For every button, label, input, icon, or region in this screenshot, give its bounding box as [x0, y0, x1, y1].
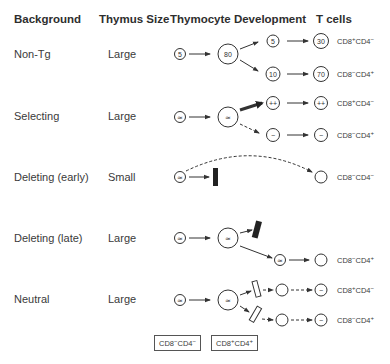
svg-text:≃: ≃: [225, 297, 231, 304]
svg-text:≃: ≃: [225, 235, 231, 242]
svg-text:−: −: [271, 132, 275, 139]
row-deleting-late-diagram: [175, 220, 328, 266]
svg-text:5: 5: [271, 38, 275, 45]
svg-text:≃: ≃: [177, 297, 183, 304]
tcell-label: CD8−CD4−: [337, 172, 374, 182]
row-deleting-early-diagram: [175, 156, 328, 186]
partial-block-icon: [249, 306, 261, 322]
svg-text:≃: ≃: [177, 235, 183, 242]
legend-dn: CD8−CD4−: [154, 335, 201, 351]
tcell-label: CD8+CD4−: [337, 36, 374, 46]
tcell-label: CD8−CD4+: [337, 69, 374, 79]
svg-text:−: −: [319, 287, 323, 294]
tcell-label: CD8+CD4−: [337, 98, 374, 108]
svg-text:80: 80: [224, 51, 232, 58]
svg-text:5: 5: [178, 51, 182, 58]
svg-text:++: ++: [317, 100, 325, 107]
svg-text:≃: ≃: [177, 174, 183, 181]
block-icon: [252, 220, 262, 238]
svg-text:−: −: [319, 132, 323, 139]
development-diagram: 5 80 5 10 30 70 ≃ ≃ ++ − ++ − ≃ ≃ ≃ ≃ ≃ …: [0, 0, 390, 364]
tcell-label: CD8−CD4+: [337, 255, 374, 265]
svg-text:++: ++: [269, 100, 277, 107]
tcell-label: CD8−CD4+: [337, 315, 374, 325]
svg-text:70: 70: [317, 71, 325, 78]
block-icon: [213, 168, 218, 186]
svg-text:≃: ≃: [177, 114, 183, 121]
svg-text:≃: ≃: [225, 114, 231, 121]
svg-text:≃: ≃: [277, 257, 283, 264]
legend-dp: CD8+CD4+: [211, 335, 258, 351]
tcell-label: CD8+CD4−: [337, 285, 374, 295]
tcell-label: CD8−CD4+: [337, 130, 374, 140]
row-selecting-diagram: [175, 97, 328, 142]
row-neutral-diagram: [175, 280, 328, 326]
svg-text:10: 10: [269, 71, 277, 78]
row-nontg-diagram: [175, 34, 329, 82]
partial-block-icon: [252, 280, 261, 297]
svg-text:30: 30: [317, 38, 325, 45]
svg-text:−: −: [319, 317, 323, 324]
